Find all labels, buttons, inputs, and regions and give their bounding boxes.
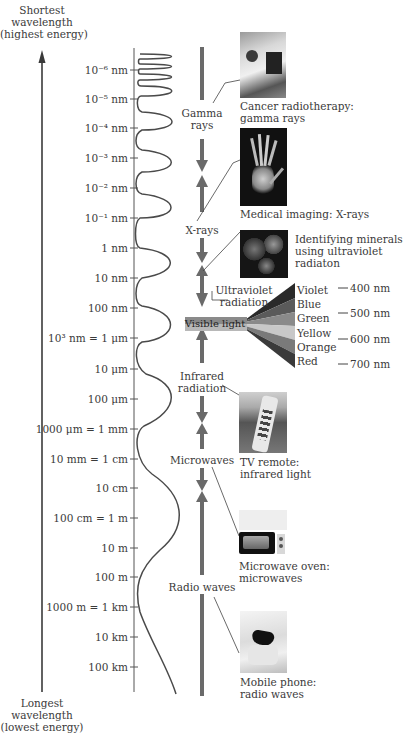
color-name-violet: Violet [297,284,328,296]
tick-label: 10 cm [95,482,128,494]
tick-label: 10 nm [95,272,128,284]
color-name-red: Red [297,355,318,367]
tick-label: 10 μm [95,363,128,375]
heading-line: (highest energy) [0,28,84,40]
band-label-ultraviolet: Ultraviolet radiation [214,284,274,308]
radiotherapy-photo [240,32,286,98]
tick-label: 10⁻⁶ nm [85,64,128,76]
band-label-line: radiation [214,296,274,308]
caption-line: Identifying minerals [295,233,403,245]
wavelength-500: 500 nm [350,307,390,319]
band-label-microwaves: Microwaves [170,454,234,466]
tick-label: 10 m [101,542,128,554]
caption-line: Microwave oven: [239,560,330,572]
tick-label: 1000 μm = 1 mm [36,423,128,435]
color-name-orange: Orange [297,341,337,353]
band-label-gamma: Gamma rays [178,107,226,131]
caption-line: microwaves [239,572,330,584]
microwave-oven-caption: Microwave oven: microwaves [239,560,330,584]
tick-label: 10⁻² nm [85,182,128,194]
band-label-radio: Radio waves [168,581,236,593]
xray-hand-photo [240,128,287,206]
caption-line: Mobile phone: [240,676,316,688]
nm-ticks [338,288,348,364]
tick-label: 10 km [95,631,128,643]
tv-remote-caption: TV remote: infrared light [240,456,311,480]
tick-label: 1000 m = 1 km [46,601,128,613]
tick-label: 1 nm [101,242,128,254]
energy-axis-arrow [39,50,46,692]
color-name-yellow: Yellow [297,327,331,339]
tick-label: 10⁻⁴ nm [85,122,128,134]
caption-line: radiaton [295,257,403,269]
band-label-visible: Visible light [184,318,246,330]
tick-label: 10³ nm = 1 μm [48,332,128,344]
band-label-line: Gamma [178,107,226,119]
tick-label: 10⁻¹ nm [85,212,128,224]
caption-line: gamma rays [240,112,354,124]
minerals-caption: Identifying minerals using ultraviolet r… [295,233,403,269]
tick-label: 10⁻⁵ nm [85,93,128,105]
caption-line: TV remote: [240,456,311,468]
band-label-xrays: X-rays [180,224,224,236]
tick-label: 100 μm [88,393,128,405]
caption-line: Medical imaging: X-rays [240,208,369,220]
band-label-infrared: Infrared radiation [176,370,228,394]
caption-line: Cancer radiotherapy: [240,100,354,112]
radiotherapy-caption: Cancer radiotherapy: gamma rays [240,100,354,124]
caption-line: radio waves [240,688,316,700]
tick-label: 10⁻³ nm [85,152,128,164]
heading-line: Longest [0,697,84,709]
heading-line: wavelength [0,16,84,28]
wavelength-700: 700 nm [350,358,390,370]
tick-label: 100 cm = 1 m [53,512,128,524]
color-name-blue: Blue [297,298,321,310]
tick-label: 10 mm = 1 cm [50,453,128,465]
tick-label: 100 nm [88,302,128,314]
wavelength-400: 400 nm [350,282,390,294]
minerals-photo [240,230,288,278]
caption-line: using ultraviolet [295,245,403,257]
band-label-line: radiation [176,382,228,394]
heading-line: wavelength [0,709,84,721]
band-label-line: Infrared [176,370,228,382]
tv-remote-photo [239,392,287,453]
color-name-green: Green [297,312,330,324]
mobile-phone-photo [240,611,287,673]
xray-caption: Medical imaging: X-rays [240,208,369,220]
caption-line: infrared light [240,468,311,480]
shortest-wavelength-heading: Shortest wavelength (highest energy) [0,4,84,40]
mobile-phone-caption: Mobile phone: radio waves [240,676,316,700]
tick-label: 100 m [95,571,128,583]
wavelength-600: 600 nm [350,333,390,345]
heading-line: Shortest [0,4,84,16]
microwave-oven-photo [239,510,287,554]
heading-line: (lowest energy) [0,721,84,733]
band-label-line: rays [178,119,226,131]
wave-curve [136,54,180,694]
tick-label: 100 km [88,661,128,673]
longest-wavelength-heading: Longest wavelength (lowest energy) [0,697,84,733]
band-label-line: Ultraviolet [214,284,274,296]
